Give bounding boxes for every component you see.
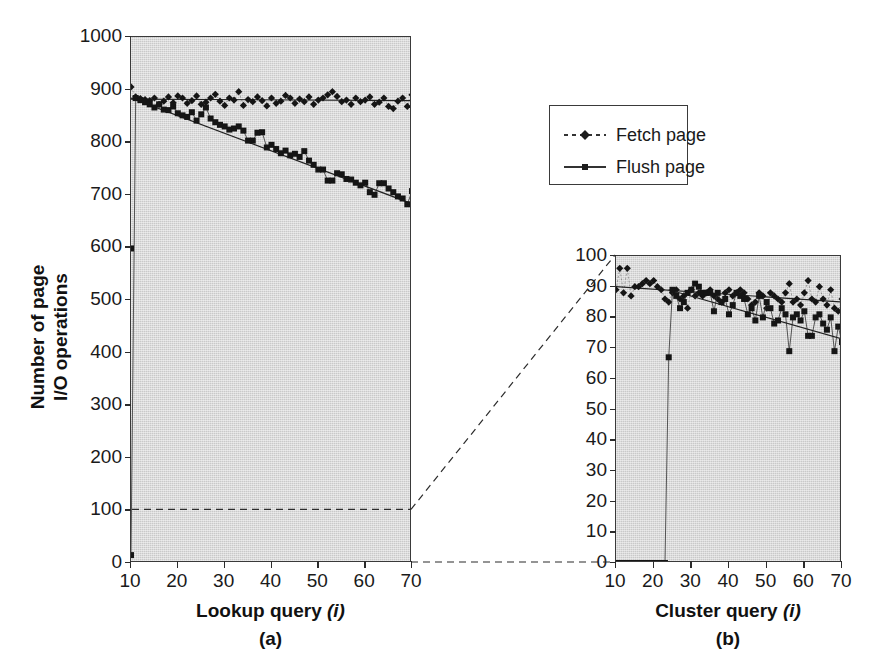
zoom-callout-connectors [0,0,871,668]
figure-root: Number of page I/O operations 0100200300… [0,0,871,668]
callout-connector-upper [411,255,615,509]
